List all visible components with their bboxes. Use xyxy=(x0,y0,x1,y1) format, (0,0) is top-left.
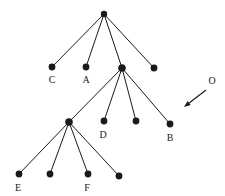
tree-node-root[interactable] xyxy=(101,11,107,17)
tree-node-n_r2[interactable] xyxy=(151,65,158,72)
edges-group xyxy=(19,14,170,176)
tree-node-n_b2[interactable] xyxy=(47,171,54,178)
pointer-annotation-group: O xyxy=(184,75,216,107)
tree-edge xyxy=(104,14,154,68)
tree-node-n_b4[interactable] xyxy=(116,173,123,180)
tree-edge xyxy=(19,122,69,174)
node-label-C: C xyxy=(49,74,56,85)
annotation-label-O: O xyxy=(208,75,215,86)
tree-node-n_left3[interactable] xyxy=(65,118,73,126)
tree-node-n_u3[interactable] xyxy=(133,118,140,125)
tree-diagram: CADBEF O xyxy=(0,0,225,196)
nodes-group xyxy=(16,11,174,180)
node-labels-group: CADBEF xyxy=(15,74,174,193)
annotation-arrow-shaft xyxy=(189,90,206,103)
node-label-A: A xyxy=(82,74,90,85)
tree-node-n_c[interactable] xyxy=(49,64,56,71)
tree-edge xyxy=(86,14,104,67)
node-label-D: D xyxy=(99,129,106,140)
tree-node-n_d[interactable] xyxy=(101,118,108,125)
node-label-B: B xyxy=(167,132,174,143)
tree-graph-canvas: CADBEF O xyxy=(0,0,225,196)
tree-edge xyxy=(69,122,88,174)
tree-node-n_e[interactable] xyxy=(16,171,23,178)
tree-node-n_b[interactable] xyxy=(167,121,174,128)
tree-edge xyxy=(104,68,122,121)
node-label-E: E xyxy=(15,182,21,193)
tree-edge xyxy=(69,122,119,176)
tree-edge xyxy=(50,122,69,174)
tree-node-n_f[interactable] xyxy=(85,171,92,178)
node-label-F: F xyxy=(84,182,90,193)
tree-edge xyxy=(104,14,122,68)
tree-edge xyxy=(52,14,104,67)
tree-node-n_mid[interactable] xyxy=(118,64,126,72)
tree-edge xyxy=(69,68,122,122)
tree-node-n_a[interactable] xyxy=(83,64,90,71)
